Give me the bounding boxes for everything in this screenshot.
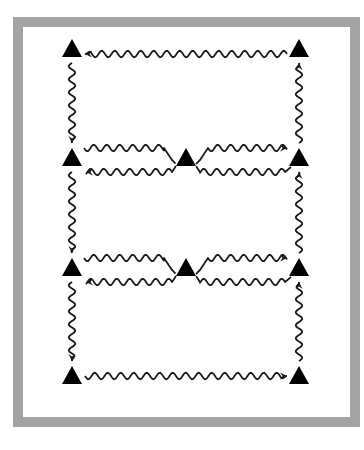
edge-TR-TL	[85, 51, 287, 57]
triangle-node-icon	[176, 148, 196, 166]
edge-C1-L1	[86, 166, 176, 175]
edge-BL-BR	[85, 373, 287, 379]
wavy-arrow-network-diagram	[0, 0, 364, 450]
edge-R1-TR	[296, 63, 302, 143]
edge-R2-C2	[196, 276, 291, 285]
arrowhead-icon	[296, 172, 303, 179]
edge-L2-C2	[84, 255, 176, 274]
triangle-node-icon	[289, 366, 309, 384]
triangle-node-icon	[176, 258, 196, 276]
arrowhead-icon	[69, 246, 76, 253]
edge-C2-R2	[196, 255, 287, 274]
triangle-node-icon	[289, 39, 309, 57]
edge-L1-L2	[69, 172, 75, 253]
edge-C1-R1	[196, 145, 287, 164]
edge-R2-R1	[296, 172, 302, 253]
edge-BR-R2	[296, 282, 302, 361]
triangle-node-icon	[289, 148, 309, 166]
triangle-node-icon	[289, 258, 309, 276]
edge-L1-C1	[84, 145, 176, 164]
triangle-node-icon	[62, 39, 82, 57]
edge-L2-BL	[69, 282, 75, 361]
triangle-node-icon	[62, 366, 82, 384]
edge-TL-L1	[69, 63, 75, 143]
triangle-node-icon	[62, 258, 82, 276]
edge-R1-C1	[196, 166, 291, 175]
triangle-node-icon	[62, 148, 82, 166]
edge-C2-L2	[86, 276, 176, 285]
